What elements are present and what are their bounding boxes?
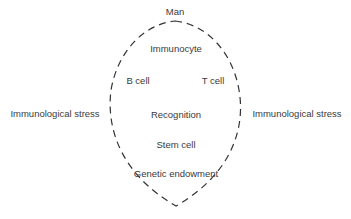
label-t-cell: T cell [202,75,225,86]
label-b-cell: B cell [126,75,149,86]
diagram-canvas: Man Immunocyte B cell T cell Recognition… [0,0,351,219]
label-recognition: Recognition [151,109,201,120]
label-immunocyte: Immunocyte [150,43,202,54]
label-genetic-endowment: Genetic endowment [134,168,219,179]
label-stress-right: Immunological stress [252,108,341,119]
label-stress-left: Immunological stress [10,108,99,119]
label-stem-cell: Stem cell [156,139,195,150]
label-man: Man [166,6,184,17]
